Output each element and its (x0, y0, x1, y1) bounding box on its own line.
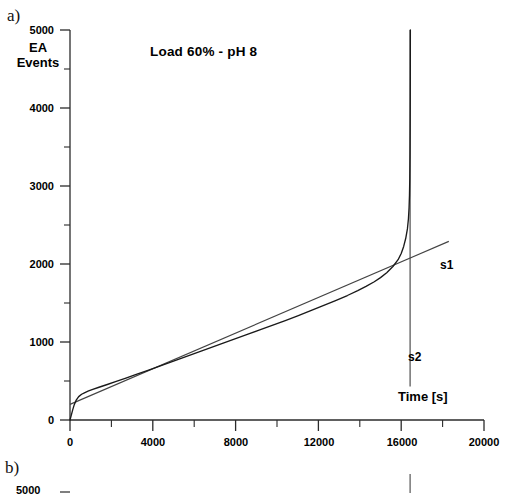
y-axis-title-line1: EA (10, 40, 66, 55)
y-axis-title-line2: Events (10, 55, 66, 70)
ytick-label-5000: 5000 (6, 24, 54, 36)
ea-events-curve (70, 30, 410, 420)
panel-a-plot (0, 0, 507, 450)
y-minor-ticks (64, 69, 70, 381)
panel-b-ytick-label-5000: 5000 (16, 484, 40, 496)
series-label-s1: s1 (440, 258, 453, 272)
ytick-label-4000: 4000 (6, 102, 54, 114)
x-axis-title: Time [s] (398, 389, 448, 404)
xtick-label-12000: 12000 (291, 436, 347, 448)
ytick-label-1000: 1000 (6, 336, 54, 348)
series-label-s2: s2 (408, 350, 421, 364)
ytick-label-2000: 2000 (6, 258, 54, 270)
xtick-label-16000: 16000 (374, 436, 430, 448)
ytick-label-3000: 3000 (6, 180, 54, 192)
ytick-label-0: 0 (6, 414, 54, 426)
panel-b-plot (0, 450, 507, 493)
y-axis-title: EA Events (10, 40, 66, 70)
xtick-label-0: 0 (50, 436, 90, 448)
chart-title: Load 60% - pH 8 (150, 44, 257, 59)
xtick-label-20000: 20000 (456, 436, 507, 448)
x-minor-ticks (111, 420, 442, 427)
xtick-label-8000: 8000 (211, 436, 261, 448)
xtick-label-4000: 4000 (128, 436, 178, 448)
s1-tangent-line (70, 241, 449, 404)
